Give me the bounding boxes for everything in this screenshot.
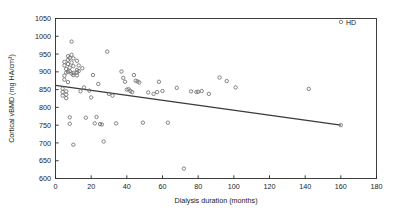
data-point: [66, 62, 69, 65]
data-point: [97, 82, 100, 85]
data-point: [72, 57, 75, 60]
x-tick-label: 0: [54, 182, 58, 191]
data-point: [106, 50, 109, 53]
data-point: [65, 96, 68, 99]
data-point: [61, 94, 64, 97]
data-point: [72, 143, 75, 146]
data-point: [68, 66, 71, 69]
data-point: [182, 167, 185, 170]
data-point: [89, 96, 92, 99]
x-tick-label: 120: [264, 182, 276, 191]
x-tick-label: 40: [123, 182, 131, 191]
data-point: [84, 116, 87, 119]
y-tick-label: 950: [39, 50, 51, 59]
data-point: [120, 70, 123, 73]
data-point: [175, 86, 178, 89]
data-point: [77, 64, 80, 67]
data-point: [70, 61, 73, 64]
data-point: [307, 87, 310, 90]
x-tick-label: 60: [159, 182, 167, 191]
data-point: [63, 60, 66, 63]
data-point: [61, 90, 64, 93]
chart-canvas: 0204060801001201401601806006507007508008…: [0, 0, 397, 212]
data-point: [63, 64, 66, 67]
x-tick-label: 160: [335, 182, 347, 191]
legend-marker-hd: [339, 20, 342, 23]
x-tick-label: 180: [371, 182, 383, 191]
legend-label-hd: HD: [346, 19, 356, 26]
y-tick-label: 800: [39, 103, 51, 112]
x-tick-label: 80: [194, 182, 202, 191]
data-point: [161, 89, 164, 92]
data-point: [189, 90, 192, 93]
data-point: [70, 40, 73, 43]
data-point: [123, 80, 126, 83]
data-point: [155, 90, 158, 93]
data-point: [225, 79, 228, 82]
data-point: [95, 115, 98, 118]
data-point: [207, 92, 210, 95]
data-point: [79, 90, 82, 93]
data-point: [200, 89, 203, 92]
y-axis-title: Cortical vBMD (mg HA/cm³): [7, 54, 16, 143]
y-tick-label: 1050: [35, 14, 51, 23]
data-point: [72, 64, 75, 67]
data-point: [82, 86, 85, 89]
data-point: [93, 122, 96, 125]
data-point: [68, 122, 71, 125]
axes-group: 0204060801001201401601806006507007508008…: [7, 14, 383, 204]
data-point: [114, 122, 117, 125]
plot-frame: [56, 19, 377, 179]
data-point: [61, 87, 64, 90]
data-point: [102, 140, 105, 143]
series-hd: [61, 40, 343, 170]
x-tick-label: 140: [299, 182, 311, 191]
data-point: [157, 80, 160, 83]
y-tick-label: 700: [39, 139, 51, 148]
y-tick-label: 600: [39, 174, 51, 183]
x-tick-label: 100: [228, 182, 240, 191]
data-point: [132, 73, 135, 76]
data-point: [68, 116, 71, 119]
y-tick-label: 1000: [35, 32, 51, 41]
data-point: [111, 94, 114, 97]
data-point: [141, 121, 144, 124]
data-point: [147, 91, 150, 94]
data-point: [234, 86, 237, 89]
data-point: [66, 80, 69, 83]
y-tick-label: 850: [39, 85, 51, 94]
scatter-plot-figure: 0204060801001201401601806006507007508008…: [0, 0, 397, 212]
data-point: [218, 76, 221, 79]
data-point: [91, 73, 94, 76]
data-point: [70, 53, 73, 56]
y-tick-label: 750: [39, 121, 51, 130]
data-point: [63, 78, 66, 81]
data-point: [81, 67, 84, 70]
x-axis-title: Dialysis duration (months): [174, 196, 257, 205]
data-point: [152, 92, 155, 95]
x-tick-label: 20: [87, 182, 95, 191]
data-point: [122, 76, 125, 79]
data-point: [166, 121, 169, 124]
y-tick-label: 900: [39, 67, 51, 76]
y-tick-label: 650: [39, 156, 51, 165]
data-point: [75, 59, 78, 62]
legend: HD: [339, 19, 356, 26]
